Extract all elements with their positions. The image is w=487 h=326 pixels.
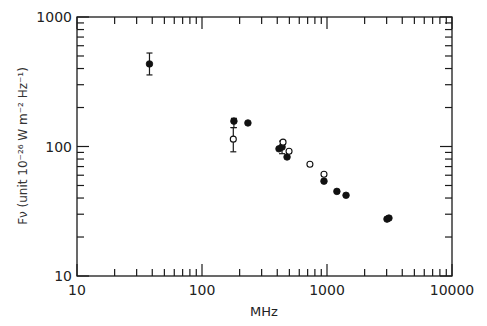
filled-data-point <box>343 192 350 199</box>
plot-frame <box>77 17 452 276</box>
filled-data-point <box>321 178 328 185</box>
y-tick-label: 10 <box>54 268 72 284</box>
filled-data-point <box>386 215 393 222</box>
filled-data-point <box>245 120 252 127</box>
y-tick-label: 1000 <box>36 9 72 25</box>
x-axis-ticks: 10100100010000 <box>68 17 474 298</box>
data-points <box>146 53 392 222</box>
open-data-point <box>280 139 286 145</box>
filled-data-point <box>146 61 153 68</box>
plot-border <box>77 17 452 276</box>
open-data-point <box>321 171 327 177</box>
x-tick-label: 1000 <box>309 282 345 298</box>
x-axis-title: MHz <box>250 304 278 319</box>
y-axis-ticks: 101001000 <box>36 9 452 284</box>
flux-spectrum-chart: 10100100010000 101001000 MHz Fν (unit 10… <box>0 0 487 326</box>
y-axis-title: Fν (unit 10⁻²⁶ W m⁻² Hz⁻¹) <box>16 67 30 225</box>
y-tick-label: 100 <box>45 139 72 155</box>
open-data-point <box>230 136 236 142</box>
open-data-point <box>307 161 313 167</box>
x-tick-label: 10000 <box>430 282 475 298</box>
open-data-point <box>286 148 292 154</box>
filled-data-point <box>231 118 238 125</box>
x-tick-label: 100 <box>189 282 216 298</box>
filled-data-point <box>334 188 341 195</box>
x-tick-label: 10 <box>68 282 86 298</box>
